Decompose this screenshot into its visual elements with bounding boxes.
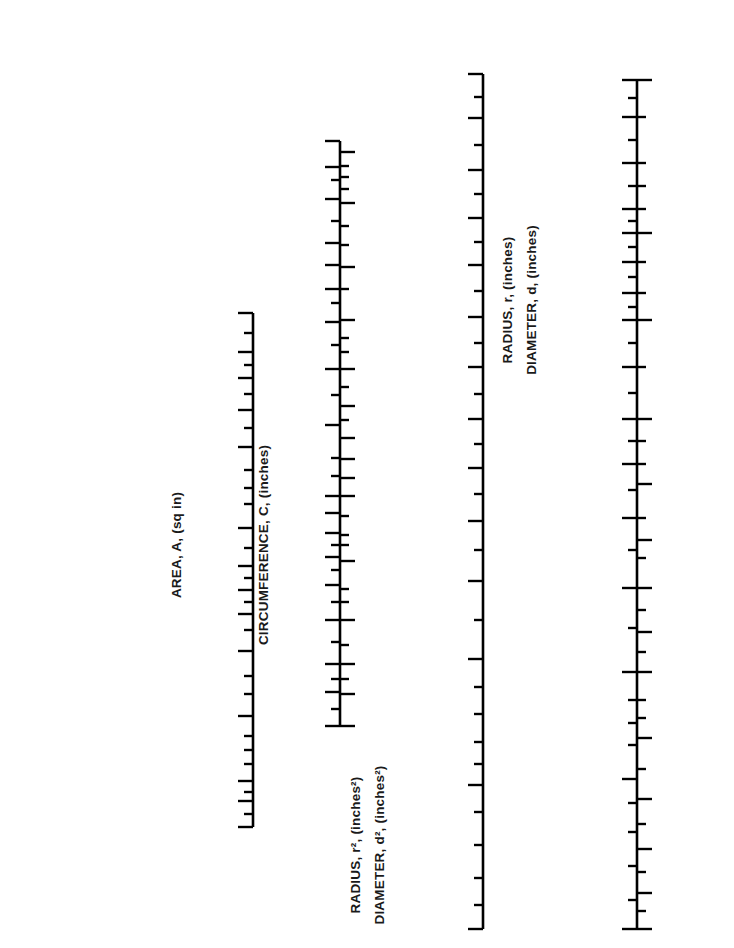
tick-group	[238, 74, 652, 929]
svg-text:RADIUS, r, (inches): RADIUS, r, (inches)	[500, 237, 515, 364]
axis-title-diameter2-5: DIAMETER, d, (inches)	[524, 225, 539, 375]
svg-text:AREA, A, (sq in): AREA, A, (sq in)	[169, 492, 184, 598]
axis-title-radius-4: RADIUS, r², (inches²)	[348, 777, 363, 914]
svg-text:DIAMETER, d², (inches²): DIAMETER, d², (inches²)	[372, 765, 387, 924]
axis-title-diameter-4: DIAMETER, d², (inches²)	[372, 765, 387, 924]
axis-title-circumference-3: CIRCUMFERENCE, C, (inches)	[256, 445, 271, 645]
svg-text:CIRCUMFERENCE, C, (inches): CIRCUMFERENCE, C, (inches)	[256, 445, 271, 645]
svg-text:DIAMETER, d, (inches): DIAMETER, d, (inches)	[524, 225, 539, 375]
axis-title-area: AREA, A, (sq in)	[169, 492, 184, 598]
nomograph-canvas: AREA, A, (sq in)CIRCUMFERENCE, C, (inche…	[0, 0, 734, 948]
nomograph-svg: AREA, A, (sq in)CIRCUMFERENCE, C, (inche…	[0, 0, 734, 948]
axis-group	[253, 74, 637, 929]
axis-title-radius2-5: RADIUS, r, (inches)	[500, 237, 515, 364]
svg-text:RADIUS, r², (inches²): RADIUS, r², (inches²)	[348, 777, 363, 914]
